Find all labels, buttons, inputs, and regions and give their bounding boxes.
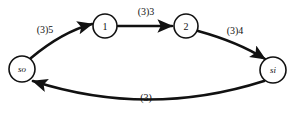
node-2[interactable]: 2 [174, 14, 198, 38]
edge-label-si-to-so: (3) [140, 92, 152, 104]
edge-labels-layer: (3)5 (3)3 (3)4 (3) [37, 6, 244, 104]
edge-label-1-to-2: (3)3 [138, 6, 155, 18]
graph-canvas: (3)5 (3)3 (3)4 (3) so 1 2 si [0, 0, 293, 115]
edge-label-2-to-si: (3)4 [227, 25, 244, 37]
graph-diagram: (3)5 (3)3 (3)4 (3) so 1 2 si [0, 0, 293, 115]
node-si[interactable]: si [260, 57, 286, 83]
node-1-label: 1 [103, 21, 108, 32]
node-1[interactable]: 1 [93, 14, 117, 38]
node-si-label: si [270, 65, 277, 75]
edge-label-so-to-1: (3)5 [37, 24, 54, 36]
node-so-label: so [18, 64, 27, 74]
node-so[interactable]: so [9, 56, 35, 82]
node-2-label: 2 [184, 21, 189, 32]
